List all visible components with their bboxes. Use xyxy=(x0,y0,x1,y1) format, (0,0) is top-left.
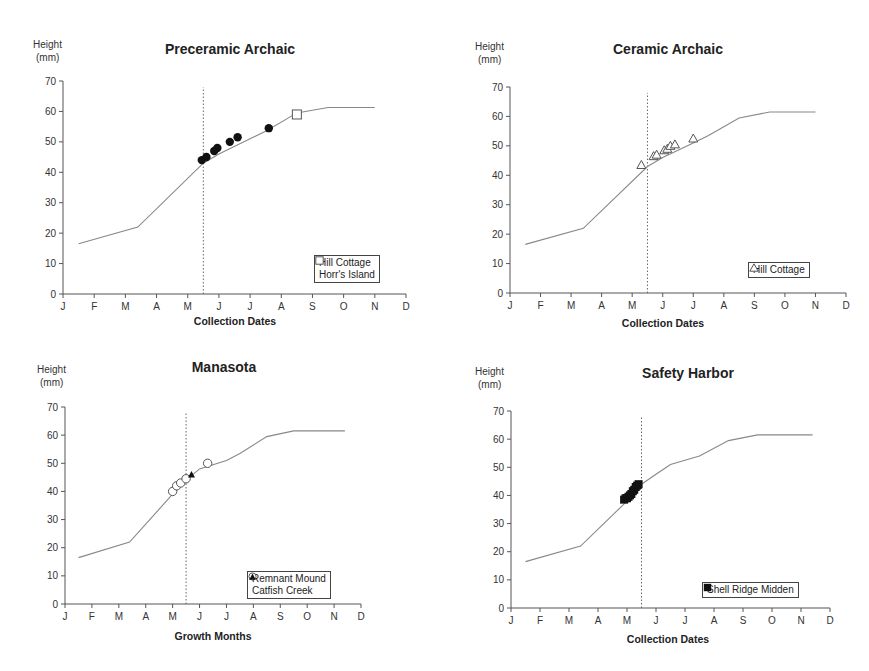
x-tick-label: J xyxy=(691,300,696,311)
y-tick-label: 70 xyxy=(492,82,504,93)
y-tick-label: 0 xyxy=(497,288,503,299)
x-tick-label: J xyxy=(216,301,221,312)
legend: Hill Cottage xyxy=(748,262,810,278)
legend-item-horrs-island: Horr's Island xyxy=(319,269,375,281)
y-tick-label: 60 xyxy=(47,430,59,441)
x-tick-label: O xyxy=(768,615,776,626)
chart-preceramic-archaic: Height (mm) Preceramic Archaic 010203040… xyxy=(30,30,450,360)
legend-label: Hill Cottage xyxy=(753,264,805,276)
x-axis-label: Collection Dates xyxy=(613,633,723,645)
x-tick-label: A xyxy=(250,611,257,622)
x-tick-label: S xyxy=(309,301,316,312)
data-point xyxy=(637,160,646,168)
x-tick-label: S xyxy=(277,611,284,622)
x-tick-label: F xyxy=(537,300,543,311)
x-tick-label: D xyxy=(402,301,409,312)
data-point xyxy=(635,480,643,488)
y-tick-label: 50 xyxy=(47,458,59,469)
data-point xyxy=(226,138,234,146)
x-tick-label: D xyxy=(357,611,364,622)
y-tick-label: 60 xyxy=(45,106,57,117)
x-tick-label: N xyxy=(797,615,804,626)
y-tick-label: 70 xyxy=(45,76,57,87)
y-tick-label: 20 xyxy=(47,542,59,553)
x-tick-label: O xyxy=(781,300,789,311)
legend-item-remnant-mound: Remnant Mound xyxy=(252,573,326,585)
data-point xyxy=(689,134,698,142)
filled-square-icon xyxy=(703,583,712,592)
plot-area: 010203040506070JFMAMJJASOND xyxy=(468,30,869,330)
x-tick-label: D xyxy=(842,300,849,311)
x-tick-label: F xyxy=(91,301,97,312)
y-tick-label: 40 xyxy=(45,167,57,178)
growth-curve xyxy=(526,435,813,562)
x-tick-label: A xyxy=(711,615,718,626)
x-axis-label: Collection Dates xyxy=(608,317,718,329)
x-tick-label: S xyxy=(740,615,747,626)
x-tick-label: A xyxy=(142,611,149,622)
x-tick-label: J xyxy=(660,300,665,311)
x-tick-label: M xyxy=(565,615,573,626)
data-point xyxy=(203,459,211,467)
y-tick-label: 10 xyxy=(493,574,505,585)
x-tick-label: N xyxy=(330,611,337,622)
open-triangle-icon xyxy=(749,263,759,272)
legend-item-shell-ridge-midden: Shell Ridge Midden xyxy=(707,584,794,596)
chart-safety-harbor: Height (mm) Safety Harbor 01020304050607… xyxy=(468,350,869,671)
y-tick-label: 60 xyxy=(493,434,505,445)
y-tick-label: 70 xyxy=(493,406,505,417)
y-tick-label: 10 xyxy=(45,258,57,269)
y-tick-label: 30 xyxy=(493,518,505,529)
x-tick-label: J xyxy=(654,615,659,626)
x-tick-label: A xyxy=(278,301,285,312)
y-tick-label: 30 xyxy=(45,197,57,208)
y-tick-label: 50 xyxy=(493,462,505,473)
data-point xyxy=(292,110,301,119)
legend: Shell Ridge Midden xyxy=(702,582,799,598)
y-tick-label: 0 xyxy=(498,603,504,614)
x-tick-label: J xyxy=(508,300,513,311)
x-tick-label: F xyxy=(537,615,543,626)
x-tick-label: J xyxy=(61,301,66,312)
growth-curve xyxy=(525,112,815,244)
x-axis-label: Growth Months xyxy=(158,630,268,642)
x-tick-label: D xyxy=(826,615,833,626)
legend-label: Hill Cottage xyxy=(319,257,371,269)
y-tick-label: 0 xyxy=(50,289,56,300)
data-point xyxy=(213,144,221,152)
y-tick-label: 20 xyxy=(492,229,504,240)
x-tick-label: M xyxy=(623,615,631,626)
plot-area: 010203040506070JFMAMJJASOND xyxy=(30,30,450,330)
y-tick-label: 10 xyxy=(492,258,504,269)
x-tick-label: M xyxy=(628,300,636,311)
y-tick-label: 40 xyxy=(47,486,59,497)
plot-area: 010203040506070JFMAMJJASOND xyxy=(30,350,450,650)
y-tick-label: 60 xyxy=(492,111,504,122)
chart-ceramic-archaic: Height (mm) Ceramic Archaic 010203040506… xyxy=(468,30,869,360)
x-tick-label: M xyxy=(168,611,176,622)
data-point xyxy=(233,133,241,141)
legend: Hill Cottage Horr's Island xyxy=(314,255,380,283)
y-tick-label: 0 xyxy=(52,599,58,610)
growth-curve xyxy=(79,108,375,244)
x-tick-label: M xyxy=(184,301,192,312)
x-tick-label: J xyxy=(509,615,514,626)
x-tick-label: J xyxy=(224,611,229,622)
legend-item-catfish-creek: Catfish Creek xyxy=(252,585,326,597)
y-tick-label: 40 xyxy=(492,170,504,181)
x-tick-label: M xyxy=(567,300,575,311)
y-tick-label: 30 xyxy=(492,199,504,210)
x-tick-label: N xyxy=(812,300,819,311)
x-tick-label: J xyxy=(197,611,202,622)
x-tick-label: J xyxy=(248,301,253,312)
x-tick-label: J xyxy=(683,615,688,626)
legend-label: Shell Ridge Midden xyxy=(707,584,794,596)
x-tick-label: F xyxy=(89,611,95,622)
filled-triangle-icon xyxy=(248,572,257,581)
y-tick-label: 30 xyxy=(47,514,59,525)
data-point xyxy=(265,124,273,132)
legend-item-hill-cottage: Hill Cottage xyxy=(753,264,805,276)
x-tick-label: A xyxy=(595,615,602,626)
x-tick-label: A xyxy=(598,300,605,311)
open-square-icon xyxy=(315,256,324,265)
